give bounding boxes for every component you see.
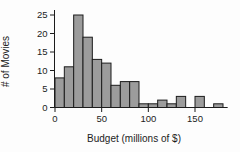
y-tick-label: 5 (42, 83, 47, 94)
x-axis-label: Budget (millions of $) (87, 133, 181, 144)
histogram-bar (55, 78, 64, 108)
histogram-bar (74, 15, 83, 108)
histogram-figure: 0510152025050100150 # of Movies Budget (… (0, 0, 240, 152)
y-tick-label: 25 (37, 9, 48, 20)
histogram-bar (148, 104, 157, 108)
histogram-bar (167, 104, 176, 108)
y-tick-label: 0 (42, 102, 47, 113)
histogram-bar (92, 59, 101, 107)
histogram-bar (120, 82, 129, 108)
histogram-bar (130, 82, 139, 108)
x-tick-label: 100 (140, 113, 156, 124)
y-axis-label: # of Movies (0, 36, 11, 87)
histogram-bar (214, 104, 223, 108)
y-tick-label: 20 (37, 28, 48, 39)
histogram-bar (158, 100, 167, 107)
x-tick-label: 50 (96, 113, 107, 124)
y-tick-label: 10 (37, 65, 48, 76)
x-tick-label: 150 (187, 113, 203, 124)
histogram-bar (111, 85, 120, 107)
budget-histogram-chart: 0510152025050100150 # of Movies Budget (… (0, 0, 240, 152)
histogram-bar (195, 96, 204, 107)
histogram-bar (102, 63, 111, 107)
histogram-bar (83, 37, 92, 107)
histogram-bar (176, 96, 185, 107)
histogram-bar (139, 104, 148, 108)
x-tick-label: 0 (52, 113, 57, 124)
bars-layer (55, 15, 223, 108)
histogram-bar (64, 67, 73, 108)
y-tick-label: 15 (37, 46, 48, 57)
